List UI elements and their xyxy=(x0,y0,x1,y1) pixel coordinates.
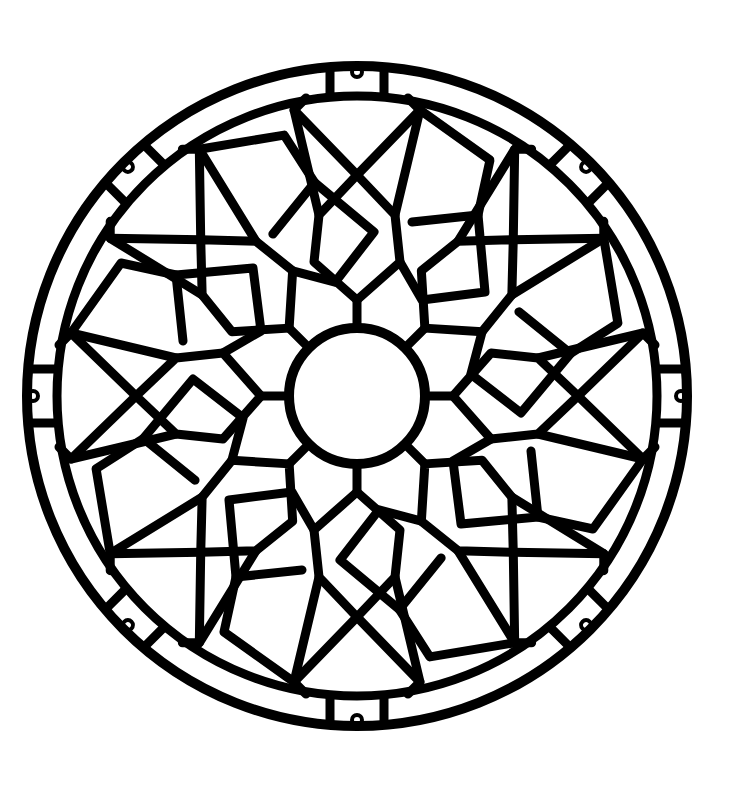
outer-ring xyxy=(27,66,687,726)
mandala-drawing xyxy=(0,0,743,788)
second-ring xyxy=(57,96,657,696)
mandala-svg xyxy=(0,0,743,788)
